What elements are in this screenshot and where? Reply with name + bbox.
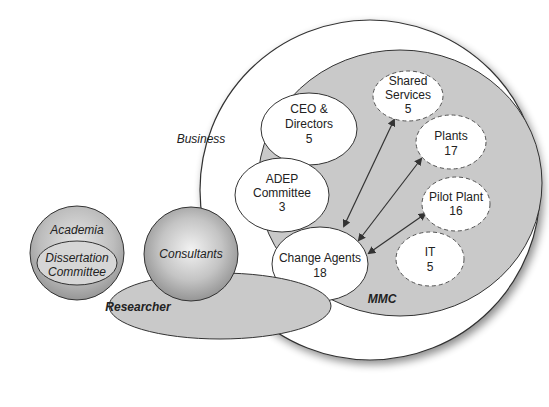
plants-label: Plants	[434, 129, 467, 143]
node-adep-committee: ADEP Committee 3	[235, 158, 329, 232]
shared-services-label-line2: Services	[385, 88, 431, 102]
business-label: Business	[177, 132, 226, 146]
shared-services-count: 5	[405, 102, 412, 116]
ceo-count: 5	[306, 132, 313, 146]
adep-label-line2: Committee	[253, 186, 311, 200]
node-plants: Plants 17	[416, 115, 486, 169]
academia-sphere: Academia Dissertation Committee	[30, 206, 124, 300]
mmc-label: MMC	[368, 292, 397, 306]
node-pilot-plant: Pilot Plant 16	[422, 177, 490, 231]
dissertation-label-line2: Committee	[48, 265, 106, 279]
pilot-plant-count: 16	[449, 204, 463, 218]
node-ceo-directors: CEO & Directors 5	[261, 93, 357, 165]
ceo-label-line2: Directors	[285, 117, 333, 131]
plants-count: 17	[444, 144, 458, 158]
adep-count: 3	[279, 200, 286, 214]
dissertation-label-line1: Dissertation	[45, 251, 109, 265]
stakeholder-diagram: CEO & Directors 5 ADEP Committee 3 Chang…	[0, 0, 549, 407]
node-shared-services: Shared Services 5	[373, 71, 443, 121]
change-agents-count: 18	[313, 266, 327, 280]
academia-label: Academia	[49, 223, 104, 237]
it-count: 5	[427, 260, 434, 274]
consultants-sphere: Consultants	[144, 207, 238, 301]
adep-label-line1: ADEP	[266, 172, 299, 186]
consultants-label: Consultants	[159, 247, 222, 261]
it-label: IT	[425, 245, 436, 259]
ceo-label-line1: CEO &	[290, 102, 327, 116]
node-it: IT 5	[396, 232, 464, 286]
researcher-label: Researcher	[105, 300, 172, 314]
shared-services-label-line1: Shared	[389, 74, 428, 88]
pilot-plant-label: Pilot Plant	[429, 190, 484, 204]
change-agents-label: Change Agents	[279, 251, 361, 265]
